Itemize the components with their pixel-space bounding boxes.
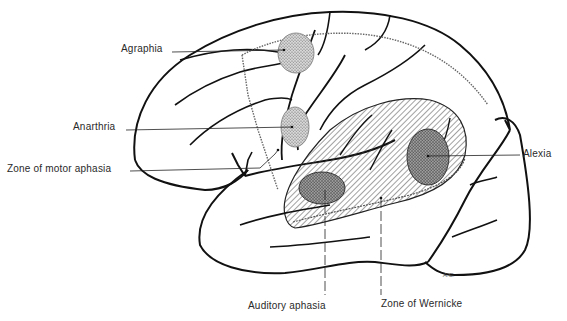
label-anarthria: Anarthria [73,121,115,132]
agraphia-area [278,33,314,73]
label-agraphia: Agraphia [121,43,163,54]
motor-aphasia-boundary [242,33,488,105]
label-alexia: Alexia [523,148,551,159]
leader-motor-aphasia [130,150,278,171]
brain-diagram: Agraphia Anarthria Zone of motor aphasia… [0,0,567,321]
artist-signature: A.C. [443,272,455,278]
label-wernicke: Zone of Wernicke [381,298,462,309]
auditory-aphasia-area [299,172,345,204]
label-auditory-aphasia: Auditory aphasia [248,300,326,311]
label-motor-aphasia: Zone of motor aphasia [7,163,111,174]
brain-illustration [0,0,567,321]
